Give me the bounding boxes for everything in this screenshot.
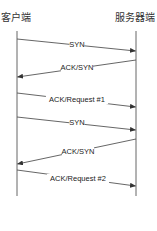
message-label: SYN [69,40,84,49]
message-label: ACK/SYN [62,147,95,156]
sequence-diagram: SYNACK/SYNACK/Request #1SYNACK/SYNACK/Re… [0,0,157,231]
message-label: ACK/Request #1 [49,95,105,104]
message-label: ACK/Request #2 [50,174,106,183]
message-label: SYN [69,118,84,127]
message-label: ACK/SYN [61,63,94,72]
message-group: SYNACK/SYNACK/Request #1SYNACK/SYNACK/Re… [17,39,136,186]
